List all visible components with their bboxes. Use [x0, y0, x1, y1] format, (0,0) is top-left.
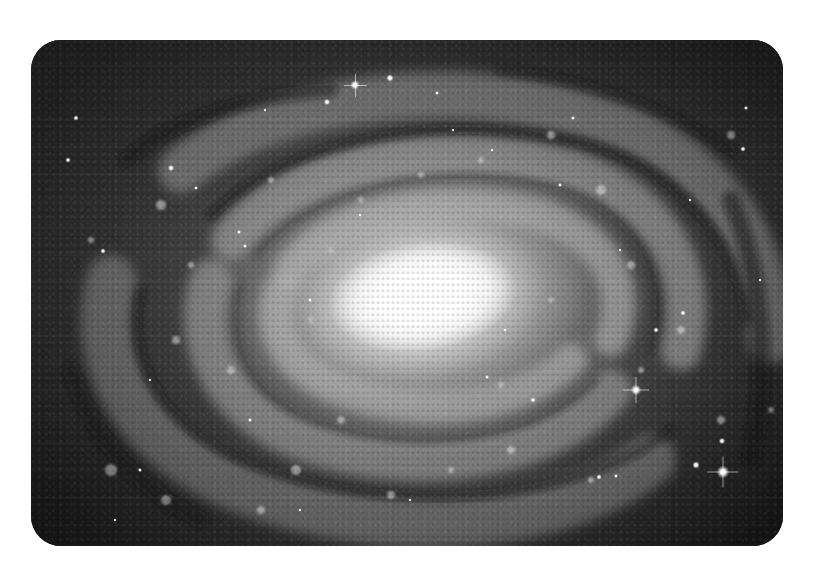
star	[435, 91, 439, 95]
star	[614, 474, 618, 478]
star	[504, 329, 507, 332]
star	[631, 385, 641, 395]
star	[693, 462, 700, 469]
star	[491, 149, 494, 152]
star	[248, 418, 252, 422]
star	[138, 468, 142, 472]
star	[717, 466, 729, 478]
star	[194, 186, 198, 190]
star	[558, 183, 562, 187]
star	[409, 499, 412, 502]
star	[149, 379, 152, 382]
star	[168, 165, 174, 171]
star	[744, 106, 748, 110]
star	[741, 147, 746, 152]
star	[531, 398, 536, 403]
star	[619, 249, 622, 252]
star	[101, 249, 106, 254]
star	[66, 158, 71, 163]
star	[299, 509, 302, 512]
star	[759, 279, 762, 282]
star	[485, 375, 489, 379]
star-field	[31, 40, 783, 546]
star	[654, 328, 659, 333]
star	[264, 109, 267, 112]
star	[243, 244, 247, 248]
star	[114, 519, 117, 522]
star	[681, 311, 686, 316]
star	[351, 81, 360, 90]
star	[689, 199, 692, 202]
star	[719, 438, 725, 444]
star	[452, 129, 455, 132]
galaxy-photo	[31, 40, 783, 546]
star	[324, 99, 330, 105]
star	[359, 214, 362, 217]
star	[308, 298, 312, 302]
star	[237, 230, 241, 234]
star	[597, 475, 602, 480]
star	[74, 116, 79, 121]
star	[571, 116, 575, 120]
star	[387, 75, 394, 82]
